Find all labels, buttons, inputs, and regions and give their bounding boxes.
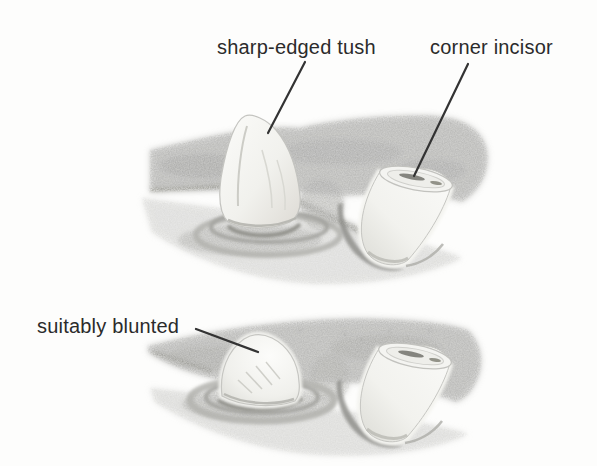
panel-sharp-tush — [142, 115, 488, 284]
leader-line-sharp-tush — [268, 62, 305, 133]
label-suitably-blunted: suitably blunted — [37, 316, 179, 337]
figure-page: sharp-edged tush corner incisor suitably… — [0, 0, 597, 466]
panel-blunted-tush — [148, 318, 481, 455]
label-sharp-edged-tush: sharp-edged tush — [217, 37, 376, 58]
label-corner-incisor: corner incisor — [430, 37, 553, 58]
teeth-illustration — [0, 0, 597, 466]
